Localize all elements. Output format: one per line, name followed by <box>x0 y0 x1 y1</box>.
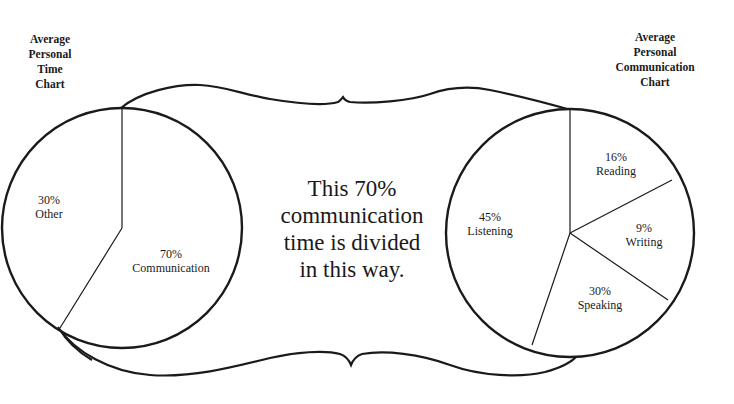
slice-label: Communication <box>116 261 226 275</box>
caption-line: in this way. <box>262 256 442 283</box>
left-pie <box>2 108 242 348</box>
left-slice-communication: 70% Communication <box>116 247 226 275</box>
caption-line: This 70% <box>262 175 442 202</box>
slice-label: Writing <box>614 235 674 249</box>
slice-percent: 30% <box>24 193 74 207</box>
slice-percent: 70% <box>116 247 226 261</box>
slice-percent: 30% <box>565 284 635 298</box>
left-slice-other: 30% Other <box>24 193 74 221</box>
slice-label: Other <box>24 207 74 221</box>
slice-label: Reading <box>586 164 646 178</box>
slice-label: Listening <box>455 224 525 238</box>
right-slice-reading: 16% Reading <box>586 150 646 178</box>
top-brace <box>121 85 571 110</box>
center-caption: This 70% communication time is divided i… <box>262 175 442 283</box>
slice-percent: 45% <box>455 210 525 224</box>
slice-percent: 9% <box>614 221 674 235</box>
caption-line: communication <box>262 202 442 229</box>
right-slice-speaking: 30% Speaking <box>565 284 635 312</box>
slice-percent: 16% <box>586 150 646 164</box>
caption-line: time is divided <box>262 229 442 256</box>
slice-label: Speaking <box>565 298 635 312</box>
right-slice-writing: 9% Writing <box>614 221 674 249</box>
right-slice-listening: 45% Listening <box>455 210 525 238</box>
